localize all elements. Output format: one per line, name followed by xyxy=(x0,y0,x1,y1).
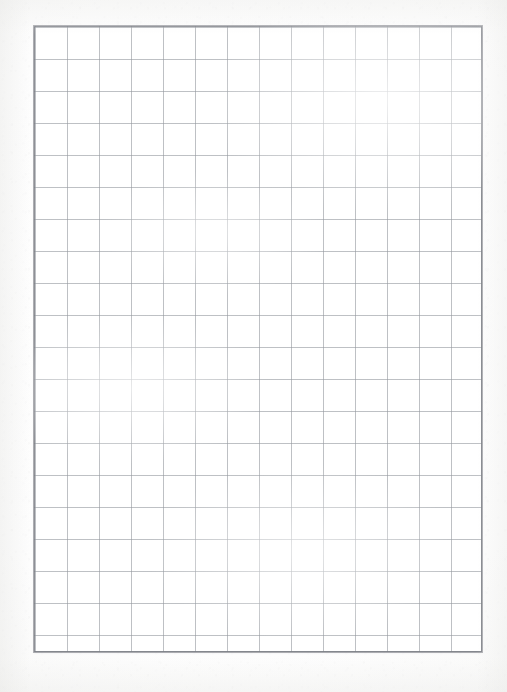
graph-paper-grid xyxy=(34,26,482,652)
graph-paper-page: Blank quadrille ruled graph paper sheet xyxy=(0,0,507,692)
